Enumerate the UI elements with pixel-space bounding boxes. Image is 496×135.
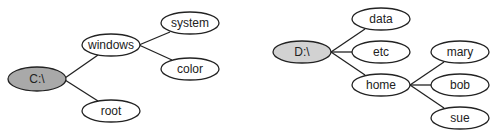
- edge-c-root: [65, 80, 98, 101]
- node-label-windows: windows: [87, 38, 134, 52]
- node-windows: windows: [82, 34, 140, 56]
- edge-windows-color: [139, 45, 172, 60]
- directory-tree-diagram: C:\ windows system color root D:\ data e…: [0, 0, 496, 135]
- node-bob: bob: [431, 74, 489, 96]
- node-label-home: home: [366, 78, 396, 92]
- node-mary: mary: [431, 41, 489, 63]
- node-root: root: [82, 100, 140, 122]
- node-label-d-root: D:\: [294, 45, 310, 59]
- node-color: color: [161, 58, 219, 80]
- node-data: data: [352, 8, 410, 30]
- node-etc: etc: [352, 41, 410, 63]
- edge-windows-system: [139, 32, 170, 45]
- node-d-root: D:\: [273, 41, 331, 63]
- node-sue: sue: [431, 107, 489, 129]
- node-label-etc: etc: [373, 45, 389, 59]
- edge-c-windows: [65, 55, 98, 78]
- node-home: home: [352, 74, 410, 96]
- node-label-bob: bob: [450, 78, 470, 92]
- node-label-sue: sue: [450, 111, 470, 125]
- node-label-color: color: [177, 62, 203, 76]
- node-label-data: data: [369, 12, 393, 26]
- node-label-system: system: [171, 16, 209, 30]
- node-label-mary: mary: [447, 45, 474, 59]
- node-label-root: root: [101, 104, 122, 118]
- node-system: system: [161, 12, 219, 34]
- node-c-root: C:\: [8, 67, 66, 91]
- node-label-c-root: C:\: [29, 72, 45, 86]
